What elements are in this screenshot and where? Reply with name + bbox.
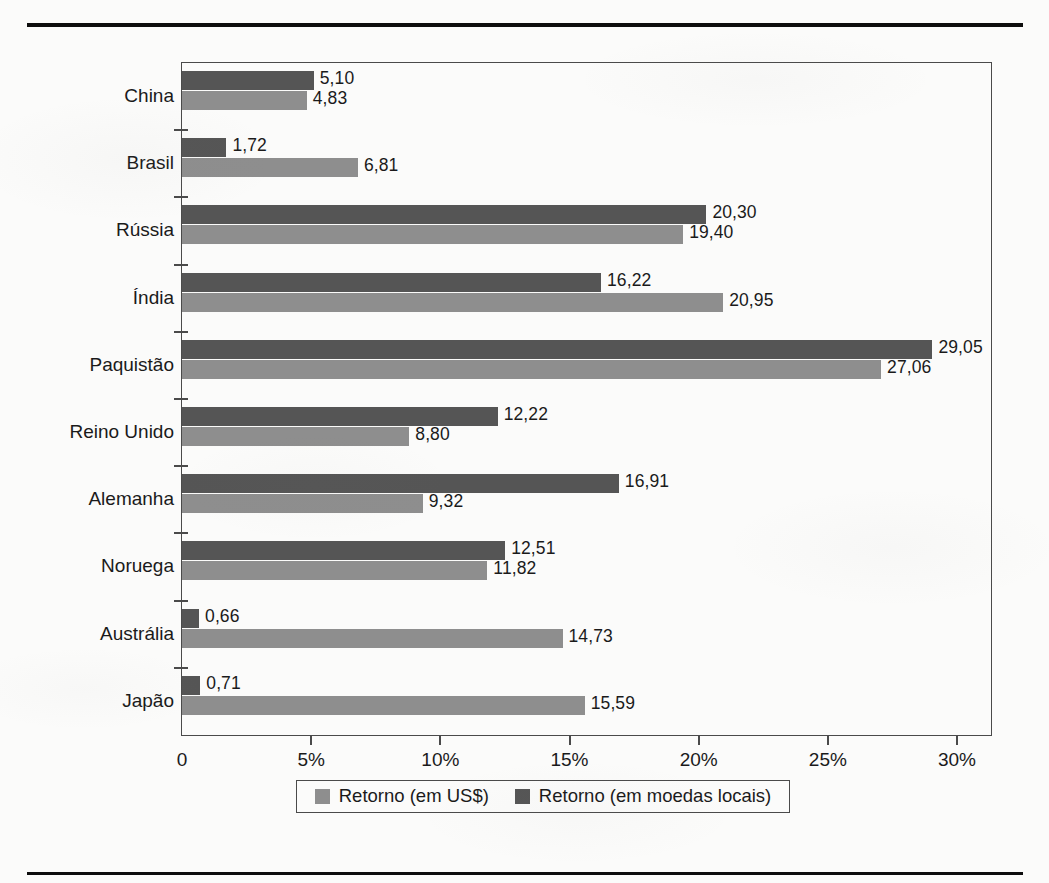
bar-group: 5,104,83 (182, 63, 991, 130)
bar-group: 0,7115,59 (182, 668, 991, 735)
bar-value-label: 5,10 (320, 69, 354, 88)
bar-usd (182, 494, 423, 513)
category-label: Paquistão (0, 331, 174, 398)
category-label: Alemanha (0, 465, 174, 532)
x-axis-tick (827, 736, 829, 745)
bar-local (182, 340, 932, 359)
x-axis-tick-label: 15% (550, 749, 588, 771)
x-axis-tick (439, 736, 441, 745)
legend-swatch-usd (315, 789, 330, 804)
bar-group: 16,919,32 (182, 466, 991, 533)
chart-legend: Retorno (em US$)Retorno (em moedas locai… (296, 780, 790, 813)
x-axis-tick (698, 736, 700, 745)
bar-value-label: 12,51 (511, 539, 555, 558)
category-label: Japão (0, 667, 174, 734)
bar-usd (182, 629, 563, 648)
bar-local (182, 541, 505, 560)
bar-group: 12,228,80 (182, 399, 991, 466)
bar-value-label: 11,82 (493, 559, 536, 578)
bar-group: 0,6614,73 (182, 601, 991, 668)
bar-local (182, 273, 601, 292)
bar-group: 12,5111,82 (182, 533, 991, 600)
category-label: Brasil (0, 129, 174, 196)
category-axis-labels: ChinaBrasilRússiaÍndiaPaquistãoReino Uni… (0, 62, 174, 736)
category-label: China (0, 62, 174, 129)
bar-usd (182, 293, 723, 312)
bar-value-label: 0,66 (205, 607, 239, 626)
bar-usd (182, 696, 585, 715)
bar-value-label: 4,83 (313, 89, 347, 108)
bar-chart-figure: ChinaBrasilRússiaÍndiaPaquistãoReino Uni… (0, 0, 1049, 883)
category-label: Reino Unido (0, 398, 174, 465)
bar-value-label: 9,32 (429, 492, 463, 511)
bar-usd (182, 91, 307, 110)
bar-usd (182, 158, 358, 177)
legend-item: Retorno (em moedas locais) (515, 787, 771, 806)
category-label: Rússia (0, 196, 174, 263)
bar-local (182, 407, 498, 426)
x-axis-tick-label: 0 (177, 749, 188, 771)
bar-value-label: 20,95 (729, 291, 773, 310)
x-axis-tick (569, 736, 571, 745)
bar-value-label: 20,30 (712, 203, 756, 222)
bar-value-label: 6,81 (364, 156, 398, 175)
x-axis-tick-label: 30% (938, 749, 976, 771)
bar-local (182, 609, 199, 628)
bar-group: 16,2220,95 (182, 265, 991, 332)
bar-value-label: 19,40 (689, 223, 733, 242)
x-axis-tick (310, 736, 312, 745)
bar-local (182, 138, 226, 157)
category-label: Índia (0, 264, 174, 331)
category-label: Austrália (0, 600, 174, 667)
legend-swatch-local (515, 789, 530, 804)
bar-usd (182, 225, 683, 244)
bar-local (182, 205, 706, 224)
bar-value-label: 29,05 (938, 338, 982, 357)
category-label: Noruega (0, 532, 174, 599)
bar-usd (182, 360, 881, 379)
bar-value-label: 16,22 (607, 271, 651, 290)
legend-item: Retorno (em US$) (315, 787, 489, 806)
bar-group: 1,726,81 (182, 130, 991, 197)
bar-value-label: 14,73 (569, 627, 613, 646)
page-rule-bottom (27, 872, 1023, 875)
bar-group: 20,3019,40 (182, 197, 991, 264)
bar-usd (182, 427, 409, 446)
x-axis-tick-label: 10% (421, 749, 459, 771)
page-rule-top (27, 23, 1023, 27)
x-axis-tick-label: 5% (297, 749, 324, 771)
bar-value-label: 0,71 (206, 674, 240, 693)
bar-value-label: 16,91 (625, 472, 669, 491)
bar-local (182, 676, 200, 695)
bar-local (182, 474, 619, 493)
legend-label: Retorno (em moedas locais) (539, 787, 771, 806)
plot-area: 5,104,831,726,8120,3019,4016,2220,9529,0… (182, 63, 991, 735)
bar-value-label: 27,06 (887, 358, 931, 377)
bar-value-label: 8,80 (415, 425, 449, 444)
bar-group: 29,0527,06 (182, 332, 991, 399)
bar-value-label: 12,22 (504, 405, 548, 424)
bar-value-label: 1,72 (232, 136, 266, 155)
x-axis-tick-label: 20% (680, 749, 718, 771)
bar-usd (182, 561, 487, 580)
bar-local (182, 71, 314, 90)
bar-value-label: 15,59 (591, 694, 635, 713)
legend-label: Retorno (em US$) (339, 787, 489, 806)
x-axis-tick-label: 25% (809, 749, 847, 771)
x-axis-tick (956, 736, 958, 745)
